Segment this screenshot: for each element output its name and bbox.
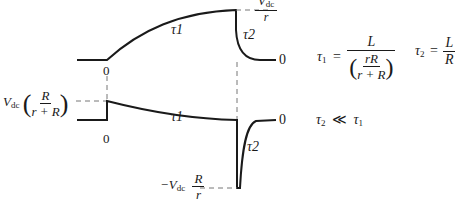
tau1-equation: τ1 = L (rRr + R) [317, 35, 395, 81]
top-origin-label: 0 [103, 64, 110, 77]
top-peak-label: Vdc r [255, 0, 277, 23]
step-level-label: Vdc (Rr + R) [3, 89, 68, 118]
top-tau1-label: τ1 [171, 23, 183, 37]
bottom-end-label: 0 [279, 113, 286, 127]
bottom-origin-label: 0 [103, 132, 110, 145]
tau2-equation: τ2 = LR [415, 36, 455, 67]
spike-min-label: −Vdc Rr [160, 172, 204, 200]
bottom-tau2-label: τ2 [247, 140, 259, 154]
top-end-label: 0 [279, 53, 286, 67]
top-tau2-label: τ2 [243, 28, 255, 42]
bottom-tau1-label: τ1 [171, 110, 183, 124]
tau-relation: τ2 ≪ τ1 [316, 113, 363, 128]
